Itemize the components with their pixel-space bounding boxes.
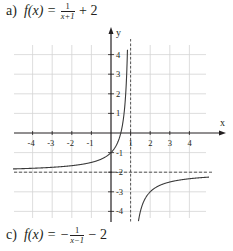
x-tick-label: -2 [67, 138, 74, 148]
curve-right-branch [138, 177, 209, 221]
denominator: x−1 [70, 236, 84, 245]
y-tick-label: 2 [116, 89, 120, 99]
y-tick-label: -4 [116, 206, 124, 216]
y-axis-arrow-icon [109, 27, 114, 34]
x-tick-label: -4 [28, 138, 36, 148]
x-axis-arrow-icon [219, 131, 226, 136]
y-axis-label: y [116, 27, 121, 38]
x-tick-label: 1 [129, 138, 133, 148]
x-axis-label: x [220, 117, 225, 128]
y-tick-label: -3 [116, 187, 123, 197]
curve-left-branch [13, 50, 127, 169]
x-tick-label: 2 [148, 138, 152, 148]
function-lhs: f(x) = − [24, 227, 69, 242]
y-tick-label: 1 [116, 108, 120, 118]
y-tick-label: -2 [116, 167, 123, 177]
part-label: c) [6, 227, 17, 242]
x-tick-label: -3 [47, 138, 54, 148]
y-tick-label: 3 [116, 69, 120, 79]
function-graph: xy-4-3-2-112344321-1-2-3-4 [0, 0, 233, 251]
x-tick-label: 3 [168, 138, 172, 148]
x-tick-label: -1 [86, 138, 93, 148]
function-tail: − 2 [85, 227, 107, 242]
bottom-function-label: c) f(x) = −1x−1 − 2 [6, 226, 107, 245]
fraction: 1x−1 [70, 226, 84, 245]
y-tick-label: -1 [116, 148, 123, 158]
x-tick-label: 4 [187, 138, 192, 148]
